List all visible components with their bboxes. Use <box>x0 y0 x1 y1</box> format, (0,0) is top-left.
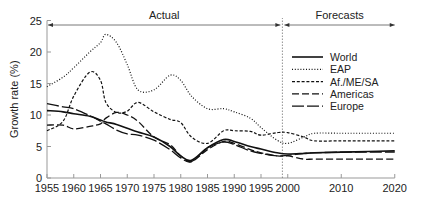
series-line-world <box>47 111 395 161</box>
legend-label: Europe <box>330 100 364 112</box>
arrowhead-right-icon <box>275 23 280 27</box>
arrowhead-left-icon <box>284 23 289 27</box>
y-axis-label: Growth rate (%) <box>8 60 20 138</box>
legend-label: World <box>330 51 357 63</box>
x-tick-label: 1960 <box>62 182 86 194</box>
x-tick-label: 1965 <box>88 182 112 194</box>
x-tick-label: 1980 <box>169 182 193 194</box>
x-tick-label: 1970 <box>115 182 139 194</box>
y-tick-label: 20 <box>30 46 42 58</box>
x-tick-label: 2010 <box>329 182 353 194</box>
legend: WorldEAPAf./ME/SAAmericasEurope <box>292 51 378 112</box>
x-tick-label: 2000 <box>276 182 300 194</box>
x-tick-label: 1995 <box>249 182 273 194</box>
x-tick-label: 1955 <box>35 182 59 194</box>
x-tick-label: 1975 <box>142 182 166 194</box>
x-tick-label: 1985 <box>195 182 219 194</box>
legend-label: EAP <box>330 63 351 75</box>
annotation-label: Actual <box>149 9 180 21</box>
legend-label: Americas <box>330 88 374 100</box>
growth-rate-chart: 0510152025195519601965197019751980198519… <box>0 0 423 206</box>
y-tick-label: 25 <box>30 15 42 27</box>
x-tick-label: 1990 <box>222 182 246 194</box>
y-tick-label: 10 <box>30 109 42 121</box>
y-tick-label: 15 <box>30 78 42 90</box>
x-tick-label: 2020 <box>383 182 407 194</box>
legend-label: Af./ME/SA <box>330 76 378 88</box>
period-annotations: ActualForecasts <box>48 9 395 27</box>
arrowhead-left-icon <box>48 23 53 27</box>
y-tick-label: 5 <box>36 141 42 153</box>
annotation-label: Forecasts <box>315 9 364 21</box>
arrowhead-right-icon <box>390 23 395 27</box>
